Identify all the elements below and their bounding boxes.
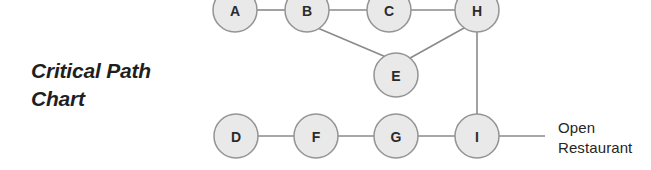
terminal-label: Open Restaurant bbox=[558, 119, 633, 156]
node-d-label: D bbox=[231, 129, 241, 145]
node-i-label: I bbox=[475, 129, 479, 145]
node-g[interactable]: G bbox=[374, 114, 418, 158]
node-a[interactable]: A bbox=[213, 0, 257, 32]
edge-e-h bbox=[410, 28, 464, 58]
node-h[interactable]: H bbox=[455, 0, 499, 32]
terminal-label-line-1: Open bbox=[558, 119, 595, 136]
node-a-label: A bbox=[230, 3, 240, 19]
critical-path-chart-figure: A B C H E D bbox=[0, 0, 651, 170]
node-e-label: E bbox=[391, 68, 400, 84]
node-i[interactable]: I bbox=[455, 114, 499, 158]
chart-title: Critical Path Chart bbox=[31, 59, 151, 110]
node-c[interactable]: C bbox=[367, 0, 411, 32]
node-g-label: G bbox=[391, 129, 402, 145]
node-e[interactable]: E bbox=[374, 53, 418, 97]
chart-title-line-1: Critical Path bbox=[31, 59, 151, 82]
edge-b-e bbox=[319, 29, 385, 57]
node-b[interactable]: B bbox=[285, 0, 329, 32]
node-f[interactable]: F bbox=[294, 114, 338, 158]
terminal-label-line-2: Restaurant bbox=[558, 139, 633, 156]
node-h-label: H bbox=[472, 3, 482, 19]
chart-title-line-2: Chart bbox=[31, 87, 86, 110]
node-d[interactable]: D bbox=[214, 114, 258, 158]
node-group: A B C H E D bbox=[213, 0, 499, 158]
diagram-canvas: A B C H E D bbox=[0, 0, 651, 170]
node-b-label: B bbox=[302, 3, 312, 19]
node-f-label: F bbox=[312, 129, 321, 145]
node-c-label: C bbox=[384, 3, 394, 19]
